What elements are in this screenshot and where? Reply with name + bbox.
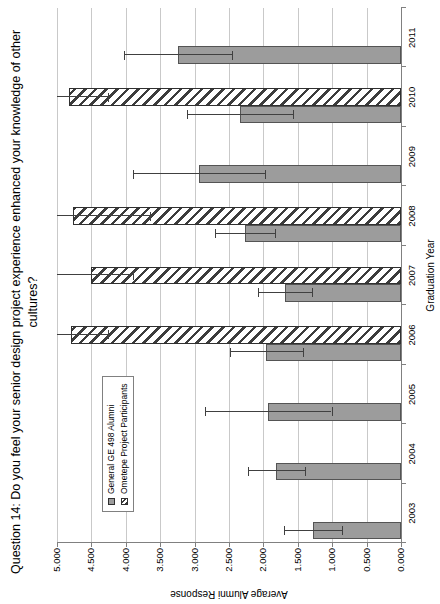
error-bar-cap — [230, 348, 231, 357]
bar-general-alumni — [268, 403, 401, 421]
category-axis-tick-label: 2009 — [406, 127, 418, 186]
error-bar-cap — [248, 467, 249, 476]
error-bar-cap — [284, 526, 285, 535]
error-bar-cap — [215, 229, 216, 238]
error-bar-cap — [332, 407, 333, 416]
value-axis-tick — [367, 543, 368, 547]
legend-item-ometepe: Ometepe Project Participants — [120, 383, 129, 505]
value-axis-tick-label: 2.000 — [257, 548, 269, 586]
value-axis-tick — [57, 543, 58, 547]
bar-general-alumni — [199, 165, 401, 183]
value-axis-tick-label: 3.500 — [154, 548, 166, 586]
value-axis-tick — [91, 543, 92, 547]
error-bar-cap — [258, 288, 259, 297]
y-axis-title: Average Alumni Response — [170, 589, 288, 600]
value-axis-tick — [160, 543, 161, 547]
bar-ometepe — [69, 88, 401, 106]
error-bar — [57, 215, 150, 216]
hatched-bar-swatch-icon — [121, 498, 128, 505]
error-bar-cap — [108, 330, 109, 339]
error-bar — [124, 54, 231, 55]
category-axis-tick-label: 2008 — [406, 186, 418, 245]
value-axis-tick — [195, 543, 196, 547]
error-bar-cap — [303, 348, 304, 357]
bar-general-alumni — [245, 225, 401, 243]
error-bar-cap — [187, 110, 188, 119]
value-axis-tick-label: 4.000 — [120, 548, 132, 586]
error-bar — [248, 470, 306, 471]
error-bar-cap — [124, 51, 125, 60]
gridline — [57, 8, 58, 543]
error-bar — [187, 114, 293, 115]
error-bar-cap — [108, 93, 109, 102]
bar-general-alumni — [313, 522, 401, 540]
legend-label: Ometepe Project Participants — [120, 383, 129, 494]
value-axis-tick-label: 4.500 — [85, 548, 97, 586]
error-bar — [284, 530, 342, 531]
error-bar — [133, 173, 265, 174]
bar-general-alumni — [178, 46, 401, 64]
chart-title: Question 14: Do you feel your senior des… — [8, 28, 42, 576]
bar-general-alumni — [276, 463, 401, 481]
value-axis-tick — [298, 543, 299, 547]
category-axis-tick-label: 2006 — [406, 305, 418, 364]
legend-item-general-alumni: General GE 498 Alumni — [107, 383, 116, 505]
category-axis-tick-label: 2003 — [406, 484, 418, 543]
x-axis-title: Graduation Year — [425, 8, 436, 543]
legend-label: General GE 498 Alumni — [107, 405, 116, 494]
error-bar-cap — [275, 229, 276, 238]
bar-general-alumni — [285, 284, 401, 302]
error-bar-cap — [305, 467, 306, 476]
error-bar — [57, 334, 108, 335]
value-axis-tick-label: 0.500 — [361, 548, 373, 586]
error-bar — [230, 351, 303, 352]
error-bar-cap — [342, 526, 343, 535]
value-axis-tick-label: 5.000 — [51, 548, 63, 586]
category-axis-line — [401, 7, 402, 543]
value-axis-tick-label: 1.000 — [326, 548, 338, 586]
value-axis-tick — [401, 543, 402, 547]
error-bar-cap — [232, 51, 233, 60]
category-axis-tick-label: 2004 — [406, 424, 418, 483]
legend: General GE 498 Alumni Ometepe Project Pa… — [102, 376, 134, 512]
value-axis-tick — [229, 543, 230, 547]
rotated-chart-canvas: Question 14: Do you feel your senior des… — [0, 0, 440, 604]
bar-general-alumni — [240, 106, 401, 124]
value-axis-tick-label: 0.000 — [395, 548, 407, 586]
solid-bar-swatch-icon — [108, 498, 115, 505]
value-axis-tick-label: 1.500 — [292, 548, 304, 586]
category-axis-tick-label: 2005 — [406, 365, 418, 424]
value-axis-tick — [263, 543, 264, 547]
error-bar — [215, 233, 276, 234]
error-bar — [258, 292, 312, 293]
error-bar-cap — [293, 110, 294, 119]
category-axis-tick-label: 2010 — [406, 67, 418, 126]
bar-ometepe — [91, 267, 401, 285]
value-axis-tick-label: 2.500 — [223, 548, 235, 586]
error-bar-cap — [133, 170, 134, 179]
error-bar-cap — [312, 288, 313, 297]
error-bar-cap — [265, 170, 266, 179]
category-axis-tick-label: 2011 — [406, 8, 418, 67]
error-bar — [57, 274, 133, 275]
bar-general-alumni — [266, 344, 401, 362]
error-bar — [57, 96, 108, 97]
value-axis-tick — [126, 543, 127, 547]
value-axis-tick-label: 3.000 — [189, 548, 201, 586]
error-bar-cap — [150, 212, 151, 221]
bar-ometepe — [71, 326, 401, 344]
error-bar-cap — [205, 407, 206, 416]
value-axis-tick — [332, 543, 333, 547]
category-axis-tick-label: 2007 — [406, 246, 418, 305]
error-bar — [205, 411, 332, 412]
error-bar-cap — [133, 271, 134, 280]
bar-ometepe — [73, 207, 401, 225]
